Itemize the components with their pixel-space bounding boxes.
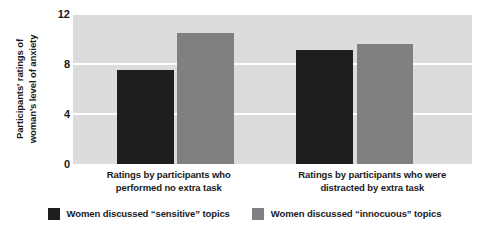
bar-innocuous-distracted-extra-task [357,44,414,164]
x-axis-label-no-extra-task: Ratings by participants who performed no… [73,168,265,194]
x-axis-label-distracted-extra-task-line-1: Ratings by participants who were [273,168,473,181]
y-axis-title: Participants' ratings of woman's level o… [6,14,46,164]
x-axis-label-distracted-extra-task: Ratings by participants who were distrac… [273,168,473,194]
y-axis-tick-12: 12 [48,9,70,20]
bar-group-distracted-extra-task [284,14,452,164]
legend-swatch-sensitive-icon [48,208,60,220]
y-axis-tick-8: 8 [48,59,70,70]
bar-innocuous-no-extra-task [177,33,234,164]
y-axis-title-line-2: woman's level of anxiety [26,35,39,144]
y-axis-tick-labels: 12 8 4 0 [48,14,70,164]
x-axis-category-labels: Ratings by participants who performed no… [73,168,472,198]
y-axis-title-text: Participants' ratings of woman's level o… [14,35,39,144]
legend-label-sensitive: Women discussed “sensitive” topics [67,208,230,220]
legend-swatch-innocuous-icon [252,208,264,220]
legend-label-innocuous: Women discussed “innocuous” topics [271,208,442,220]
x-axis-label-no-extra-task-line-2: performed no extra task [73,181,265,194]
x-axis-label-no-extra-task-line-1: Ratings by participants who [73,168,265,181]
y-axis-tick-0: 0 [48,159,70,170]
legend-item-innocuous: Women discussed “innocuous” topics [252,208,442,220]
y-axis-tick-4: 4 [48,109,70,120]
bar-group-no-extra-task [105,14,273,164]
bar-sensitive-distracted-extra-task [296,50,353,164]
plot-area [73,14,472,164]
legend-item-sensitive: Women discussed “sensitive” topics [48,208,230,220]
bar-chart-figure: Participants' ratings of woman's level o… [0,0,489,236]
y-axis-title-line-1: Participants' ratings of [14,35,27,144]
x-axis-label-distracted-extra-task-line-2: distracted by extra task [273,181,473,194]
chart-legend: Women discussed “sensitive” topics Women… [0,208,489,220]
bar-sensitive-no-extra-task [117,70,174,164]
